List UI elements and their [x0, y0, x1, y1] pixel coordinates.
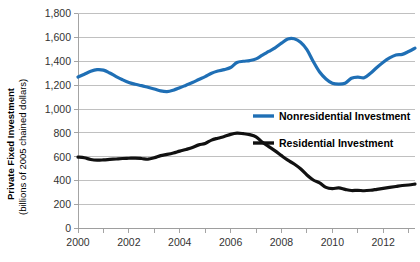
x-tick-label: 2000 [66, 236, 90, 248]
y-tick-label: 1,800 [45, 7, 71, 19]
chart-canvas: 02004006008001,0001,2001,4001,6001,800 2… [0, 0, 420, 262]
y-axis-title-line1: Private Fixed Investment [5, 87, 16, 200]
x-tick-label: 2006 [219, 236, 243, 248]
y-tick-label: 1,400 [45, 55, 71, 67]
x-tick-label: 2002 [117, 236, 141, 248]
y-tick-label: 1,000 [45, 103, 71, 115]
y-tick-label: 200 [53, 198, 71, 210]
legend: Nonresidential InvestmentResidential Inv… [253, 110, 411, 149]
x-tick-label: 2004 [168, 236, 192, 248]
x-tick-label: 2010 [321, 236, 345, 248]
y-tick-label: 0 [65, 222, 71, 234]
tickmarks-group [74, 14, 409, 233]
y-tick-label: 600 [53, 151, 71, 163]
y-tick-label: 400 [53, 174, 71, 186]
y-axis-title: Private Fixed Investment (billions of 20… [5, 79, 28, 215]
investment-line-chart: 02004006008001,0001,2001,4001,6001,800 2… [0, 0, 420, 262]
legend-label-2: Residential Investment [279, 137, 394, 149]
series-line-nonresidential-investment [78, 38, 415, 91]
x-tick-labels-group: 2000200220042006200820102012 [66, 236, 395, 248]
y-axis-title-line2: (billions of 2005 chained dollars) [17, 79, 28, 215]
x-tick-label: 2008 [270, 236, 294, 248]
x-tick-label: 2012 [372, 236, 396, 248]
y-tick-label: 1,600 [45, 31, 71, 43]
y-tick-label: 800 [53, 127, 71, 139]
legend-label-1: Nonresidential Investment [279, 110, 411, 122]
y-tick-labels-group: 02004006008001,0001,2001,4001,6001,800 [45, 7, 71, 234]
y-tick-label: 1,200 [45, 79, 71, 91]
